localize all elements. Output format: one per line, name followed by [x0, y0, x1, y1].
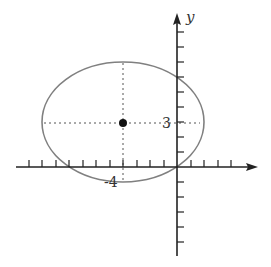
center-y-value-label: 3: [162, 115, 171, 131]
coordinate-plane-figure: y 3 -4: [0, 0, 271, 267]
y-axis: [173, 13, 184, 256]
x-axis: [16, 160, 258, 171]
y-axis-label: y: [185, 8, 195, 26]
ellipse-center-point: [119, 119, 127, 127]
center-x-value-label: -4: [104, 174, 118, 190]
x-axis-ticks: [29, 160, 231, 167]
y-axis-ticks: [177, 32, 184, 242]
